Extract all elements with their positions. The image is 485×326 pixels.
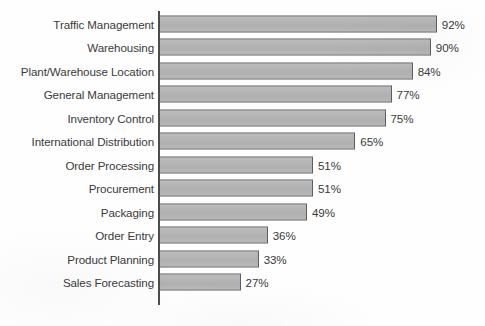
plot-area: Traffic Management92%Warehousing90%Plant…	[0, 0, 485, 326]
bar-category-label: Order Entry	[95, 229, 154, 242]
bar-category-label: Inventory Control	[67, 111, 154, 124]
bar-row: Packaging49%	[0, 200, 485, 224]
bar-value-label: 84%	[418, 64, 441, 77]
bar-row: General Management77%	[0, 83, 485, 107]
bar	[159, 250, 259, 267]
bar-category-label: Warehousing	[87, 41, 154, 54]
bar-value-label: 90%	[436, 41, 459, 54]
bar-category-label: General Management	[44, 88, 154, 101]
bar-value-label: 92%	[442, 17, 465, 30]
bar-category-label: Plant/Warehouse Location	[21, 64, 154, 77]
bar	[159, 39, 431, 56]
bar-value-label: 51%	[318, 158, 341, 171]
bar	[159, 227, 268, 244]
bar-row: Traffic Management92%	[0, 12, 485, 36]
bar-category-label: Packaging	[101, 205, 154, 218]
bar-category-label: Order Processing	[65, 158, 154, 171]
bar	[159, 203, 307, 220]
bar	[159, 274, 241, 291]
bar	[159, 86, 392, 103]
bar	[159, 15, 437, 32]
bar-row: Order Processing51%	[0, 153, 485, 177]
bar-value-label: 77%	[397, 88, 420, 101]
bar	[159, 62, 413, 79]
bar-value-label: 33%	[264, 252, 287, 265]
bar-row: Plant/Warehouse Location84%	[0, 59, 485, 83]
bar-value-label: 75%	[391, 111, 414, 124]
bar-category-label: Procurement	[89, 182, 154, 195]
bar-value-label: 49%	[312, 205, 335, 218]
bar-row: Order Entry36%	[0, 224, 485, 248]
y-axis-line	[158, 11, 160, 305]
bar-category-label: Sales Forecasting	[63, 276, 154, 289]
bar-row: Product Planning33%	[0, 247, 485, 271]
bar-row: Sales Forecasting27%	[0, 271, 485, 295]
bar-row: Inventory Control75%	[0, 106, 485, 130]
bar-row: International Distribution65%	[0, 130, 485, 154]
bar-category-label: International Distribution	[32, 135, 154, 148]
bar-category-label: Traffic Management	[53, 17, 154, 30]
bar-value-label: 36%	[273, 229, 296, 242]
bar	[159, 109, 386, 126]
bar	[159, 133, 355, 150]
bar-value-label: 51%	[318, 182, 341, 195]
bar	[159, 180, 313, 197]
bar-value-label: 27%	[246, 276, 269, 289]
bar-category-label: Product Planning	[67, 252, 154, 265]
bar-row: Warehousing90%	[0, 36, 485, 60]
bar	[159, 156, 313, 173]
bar-row: Procurement51%	[0, 177, 485, 201]
bar-chart: Traffic Management92%Warehousing90%Plant…	[0, 0, 485, 326]
bar-value-label: 65%	[360, 135, 383, 148]
